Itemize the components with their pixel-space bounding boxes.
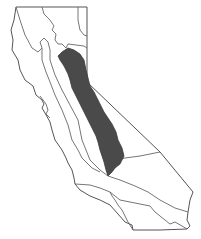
region-boundary-northeast — [78, 7, 87, 36]
region-boundary-south-coast — [75, 184, 187, 229]
sierra-nevada-region — [58, 48, 124, 176]
region-boundary-north — [42, 7, 68, 48]
region-boundary-peninsular — [110, 192, 133, 230]
region-boundary-modoc — [68, 44, 87, 48]
region-boundary-transverse — [108, 176, 188, 212]
map-svg — [0, 0, 201, 239]
california-range-map: California — [0, 0, 201, 239]
